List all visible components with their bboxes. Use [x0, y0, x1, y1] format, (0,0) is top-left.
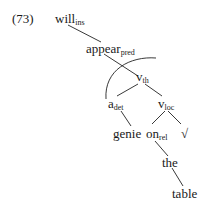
node-a-det-sub: det	[114, 103, 124, 112]
edge-adet-genie	[121, 111, 131, 126]
node-table: table	[172, 187, 197, 200]
edge-vloc-on	[152, 111, 165, 124]
node-genie: genie	[113, 127, 141, 140]
edge-will-appear	[68, 25, 101, 42]
edge-vloc-root	[168, 111, 181, 124]
node-appear-sub: pred	[121, 48, 135, 57]
node-will: willins	[55, 12, 85, 27]
node-v-th-sub: th	[143, 76, 149, 85]
node-v-th: vth	[136, 70, 149, 85]
node-will-sub: ins	[75, 18, 84, 27]
node-appear: appearpred	[86, 42, 135, 57]
node-a-det-word: a	[108, 96, 114, 111]
node-the: the	[162, 156, 178, 169]
root-symbol-icon: √	[181, 126, 188, 141]
edge-appear-vth	[104, 54, 138, 76]
node-on-word: on	[146, 126, 159, 141]
node-a-det: adet	[108, 97, 124, 112]
node-v-loc: vloc	[158, 97, 174, 112]
node-table-word: table	[172, 186, 197, 201]
node-v-th-word: v	[136, 69, 143, 84]
node-v-loc-sub: loc	[165, 103, 175, 112]
node-genie-word: genie	[113, 126, 141, 141]
example-number: (73)	[12, 12, 34, 25]
edge-vth-adet	[117, 84, 138, 96]
node-v-loc-word: v	[158, 96, 165, 111]
node-root: √	[181, 127, 188, 140]
edge-the-table	[172, 168, 183, 186]
node-the-word: the	[162, 155, 178, 170]
edge-on-the	[155, 141, 168, 156]
node-will-word: will	[55, 11, 75, 26]
node-on-sub: rel	[159, 133, 167, 142]
node-appear-word: appear	[86, 41, 121, 56]
edge-vth-vloc	[145, 84, 162, 96]
tree-edges	[0, 0, 207, 205]
node-on: onrel	[146, 127, 167, 142]
